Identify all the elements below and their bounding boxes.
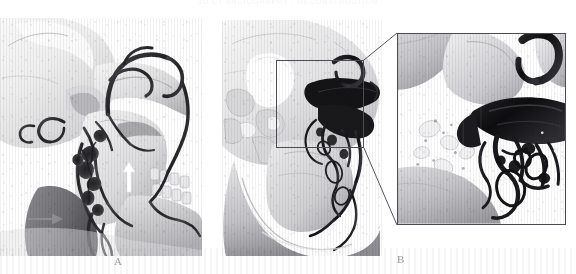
panel-a-caption-letter: A	[114, 255, 122, 267]
panel-inset-magnified	[397, 33, 566, 225]
panel-b-caption-letter: B	[397, 253, 404, 265]
panel-a-preoperative	[0, 18, 202, 256]
figure-header-text: 3D CT ANGIOGRAPHY · RECONSTRUCTION	[0, 0, 576, 5]
panel-a-volume-render	[0, 18, 202, 256]
figure-container: 3D CT ANGIOGRAPHY · RECONSTRUCTION	[0, 0, 576, 274]
panel-inset-volume-render	[398, 34, 565, 224]
panel-b-postoperative	[222, 20, 382, 256]
panel-b-volume-render	[222, 20, 382, 256]
